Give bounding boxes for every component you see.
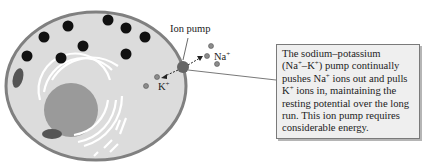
callout-line: run. This ion pump requires (282, 110, 414, 122)
callout-line: (Na+–K+) pump continually (282, 60, 414, 72)
callout-line: K+ ions in, maintaining the (282, 85, 414, 97)
ion-pump (177, 61, 189, 73)
callout-line: considerable energy. (282, 122, 414, 134)
mitochondrion (42, 129, 62, 139)
callout-box: The sodium–potassium (Na+–K+) pump conti… (276, 44, 420, 139)
callout-line: pushes Na+ ions out and pulls (282, 73, 414, 85)
potassium-label: K+ (158, 82, 170, 93)
callout-line: resting potential over the long (282, 98, 414, 110)
neuron-ion-pump-diagram: Ion pump Na+ K+ The sodium–potassium (Na… (0, 0, 430, 163)
sodium-label: Na+ (214, 52, 230, 63)
ion-pump-label: Ion pump (170, 24, 211, 35)
